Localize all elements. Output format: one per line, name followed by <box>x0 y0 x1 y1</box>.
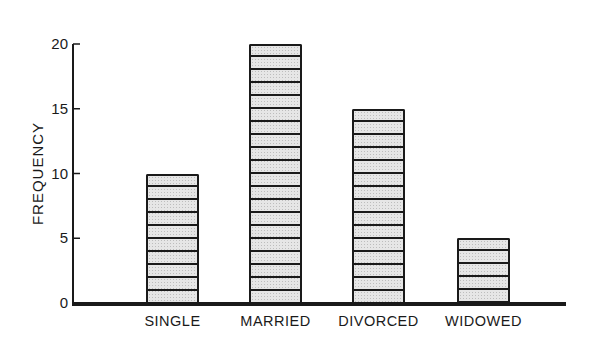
y-tick-label: 10 <box>38 166 68 182</box>
y-tick-label: 5 <box>38 230 68 246</box>
y-tick-label: 0 <box>38 295 68 311</box>
x-category-label: MARRIED <box>221 313 331 329</box>
x-category-label: DIVORCED <box>324 313 434 329</box>
bar-widowed <box>457 238 510 304</box>
x-category-label: SINGLE <box>118 313 228 329</box>
x-category-label: WIDOWED <box>429 313 539 329</box>
bar-divorced <box>352 109 405 304</box>
bar-married <box>249 44 302 304</box>
y-tick-label: 20 <box>38 36 68 52</box>
bar-single <box>146 174 199 305</box>
y-tick-label: 15 <box>38 101 68 117</box>
frequency-bar-chart: FREQUENCY 05101520 SINGLEMARRIEDDIVORCED… <box>0 0 594 346</box>
